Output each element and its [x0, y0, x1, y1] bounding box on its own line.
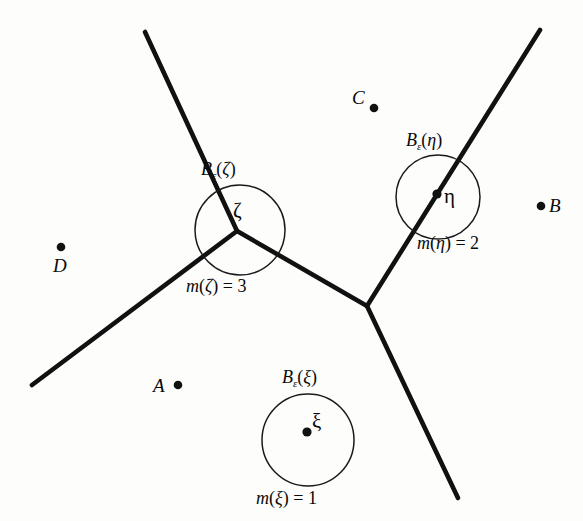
- dot-point-D: [57, 243, 66, 252]
- point-label-B: B: [549, 196, 561, 215]
- dot-point-B: [537, 202, 546, 211]
- edge-zeta-to-center: [237, 231, 367, 306]
- point-label-D: D: [53, 256, 67, 275]
- ball-label-zeta-close: ): [230, 159, 236, 179]
- point-label-eta: η: [444, 186, 455, 207]
- ball-label-eta: Bε(η): [406, 131, 442, 152]
- mult-xi-value: 1: [308, 488, 317, 508]
- point-label-A: A: [153, 376, 165, 395]
- mult-eta-value: 2: [470, 233, 479, 253]
- ball-label-zeta-arg: ζ: [222, 159, 229, 179]
- mult-eta-m: m: [417, 233, 430, 253]
- point-label-C: C: [352, 88, 365, 107]
- ball-circle-xi: [262, 394, 354, 486]
- dot-eta: [432, 189, 441, 198]
- mult-eta-arg: η: [436, 233, 445, 253]
- multiplicity-label-zeta: m(ζ) = 3: [186, 277, 246, 295]
- mult-eta-eq: =: [451, 233, 470, 253]
- ball-label-eta-B: B: [406, 130, 417, 150]
- ball-label-xi: Bε(ξ): [282, 368, 317, 389]
- dot-xi: [302, 427, 311, 436]
- mult-xi-arg: ξ: [275, 488, 283, 508]
- mult-zeta-eq: =: [218, 276, 237, 296]
- ball-label-eta-close: ): [436, 130, 442, 150]
- mult-zeta-value: 3: [237, 276, 246, 296]
- point-label-xi: ξ: [312, 411, 321, 432]
- mult-xi-eq: =: [289, 488, 308, 508]
- ball-label-xi-close: ): [311, 367, 317, 387]
- tropical-curve-figure: Bε(ζ) ζ m(ζ) = 3 Bε(η) η m(η) = 2 Bε(ξ) …: [0, 0, 583, 521]
- graph-edges: [32, 30, 540, 498]
- ball-label-zeta: Bε(ζ): [201, 160, 236, 181]
- edge-zeta-upper-left: [145, 32, 237, 231]
- dot-point-A: [174, 381, 183, 390]
- edge-center-lower-right: [367, 306, 458, 498]
- ball-label-eta-arg: η: [427, 130, 436, 150]
- multiplicity-label-xi: m(ξ) = 1: [256, 489, 317, 507]
- diagram-canvas: [0, 0, 583, 521]
- mult-xi-m: m: [256, 488, 269, 508]
- point-label-zeta: ζ: [233, 200, 242, 221]
- edge-center-upper-right: [367, 30, 540, 306]
- ball-label-zeta-B: B: [201, 159, 212, 179]
- ball-label-xi-arg: ξ: [303, 367, 311, 387]
- dot-point-C: [370, 104, 379, 113]
- mult-zeta-m: m: [186, 276, 199, 296]
- ball-label-xi-B: B: [282, 367, 293, 387]
- multiplicity-label-eta: m(η) = 2: [417, 234, 479, 252]
